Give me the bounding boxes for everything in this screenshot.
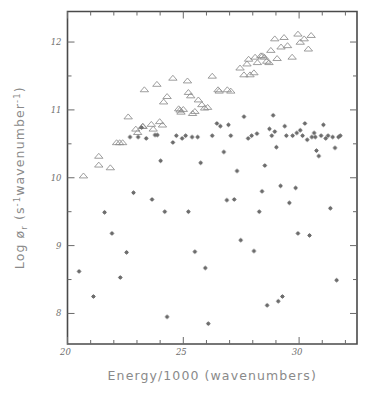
- data-point-star: [334, 278, 339, 283]
- y-axis-tick-labels: 89101112: [51, 37, 62, 318]
- series-triangles: [79, 31, 315, 178]
- data-point-triangle: [147, 121, 155, 126]
- data-point-star: [214, 121, 219, 126]
- data-point-triangle: [283, 43, 291, 48]
- data-point-star: [280, 294, 285, 299]
- data-point-star: [262, 163, 267, 168]
- x-axis-tick-labels: 202530: [59, 347, 303, 357]
- data-point-star: [260, 189, 265, 194]
- data-point-triangle: [304, 46, 312, 51]
- data-point-star: [158, 158, 163, 163]
- data-point-star: [170, 140, 175, 145]
- data-point-triangle: [307, 33, 315, 38]
- data-point-triangle: [250, 70, 258, 75]
- data-point-star: [282, 124, 287, 129]
- data-point-star: [136, 135, 141, 140]
- data-point-star: [155, 133, 160, 138]
- data-point-triangle: [273, 56, 281, 61]
- data-point-star: [271, 113, 276, 118]
- data-point-star: [224, 198, 229, 203]
- data-point-star: [316, 154, 321, 159]
- y-tick-label: 10: [51, 173, 62, 183]
- data-point-triangle: [280, 35, 288, 40]
- x-axis-ticks: [68, 12, 346, 345]
- plot-frame: [68, 12, 358, 345]
- data-point-star: [238, 238, 243, 243]
- data-point-triangle: [187, 93, 195, 98]
- data-point-star: [252, 249, 257, 254]
- data-point-star: [131, 190, 136, 195]
- data-point-star: [124, 250, 129, 255]
- data-point-triangle: [106, 165, 114, 170]
- data-point-triangle: [158, 122, 166, 127]
- data-point-triangle: [271, 36, 279, 41]
- data-point-triangle: [95, 153, 103, 158]
- scatter-plot-figure: 202530 89101112 Energy/1000 (wavenumbers…: [0, 0, 368, 397]
- data-point-star: [257, 209, 262, 214]
- data-point-triangle: [149, 126, 157, 131]
- data-point-star: [284, 133, 289, 138]
- y-axis-ticks: [68, 42, 358, 313]
- data-point-star: [221, 150, 226, 155]
- data-point-star: [307, 233, 312, 238]
- data-point-star: [192, 249, 197, 254]
- data-point-star: [198, 160, 203, 165]
- data-point-triangle: [183, 78, 191, 83]
- data-point-star: [267, 126, 272, 131]
- data-point-star: [183, 133, 188, 138]
- data-point-star: [255, 131, 260, 136]
- data-point-triangle: [288, 54, 296, 59]
- y-axis-label: Log ør (s-1wavenumber-1): [12, 86, 29, 269]
- x-tick-label: 25: [175, 347, 187, 357]
- data-point-star: [287, 200, 292, 205]
- y-tick-label: 8: [56, 308, 62, 318]
- data-point-star: [272, 129, 277, 134]
- data-point-triangle: [243, 61, 251, 66]
- data-point-star: [128, 135, 133, 140]
- data-point-star: [246, 136, 251, 141]
- data-point-star: [319, 133, 324, 138]
- data-point-star: [186, 209, 191, 214]
- data-point-triangle: [124, 114, 132, 119]
- data-point-triangle: [208, 73, 216, 78]
- data-point-star: [228, 133, 233, 138]
- data-point-star: [226, 122, 231, 127]
- data-point-triangle: [253, 60, 261, 65]
- data-point-triangle: [140, 87, 148, 92]
- y-tick-label: 9: [56, 241, 62, 251]
- data-point-star: [118, 275, 123, 280]
- data-point-star: [232, 197, 237, 202]
- data-point-star: [210, 133, 215, 138]
- data-point-triangle: [169, 75, 177, 80]
- y-axis-label-text: Log ør (s-1wavenumber-1): [12, 86, 29, 269]
- plot-svg: 202530 89101112 Energy/1000 (wavenumbers…: [0, 0, 368, 397]
- data-point-star: [242, 114, 247, 119]
- data-point-triangle: [153, 81, 161, 86]
- data-point-triangle: [79, 173, 87, 178]
- data-point-star: [235, 169, 240, 174]
- data-point-star: [150, 197, 155, 202]
- y-tick-label: 12: [51, 37, 62, 47]
- data-point-star: [190, 135, 195, 140]
- data-point-triangle: [159, 99, 167, 104]
- plot-frame-rect: [68, 12, 358, 345]
- data-point-star: [314, 148, 319, 153]
- data-point-star: [218, 124, 223, 129]
- data-point-star: [174, 133, 179, 138]
- data-point-star: [102, 210, 107, 215]
- data-point-star: [162, 209, 167, 214]
- data-point-star: [195, 135, 200, 140]
- data-point-star: [300, 133, 305, 138]
- data-point-star: [165, 314, 170, 319]
- data-point-star: [265, 303, 270, 308]
- data-point-triangle: [267, 47, 275, 52]
- data-point-star: [91, 294, 96, 299]
- data-point-star: [290, 133, 295, 138]
- data-point-star: [276, 299, 281, 304]
- x-tick-label: 30: [292, 347, 303, 357]
- data-point-star: [312, 131, 317, 136]
- data-point-star: [144, 136, 149, 141]
- data-point-star: [330, 135, 335, 140]
- data-point-star: [294, 131, 299, 136]
- data-point-triangle: [194, 97, 202, 102]
